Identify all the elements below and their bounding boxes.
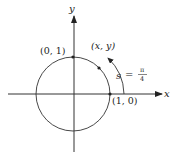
point-0-1 bbox=[71, 55, 74, 58]
point-label-1-0: (1, 0) bbox=[112, 95, 138, 106]
arc-equals: = bbox=[125, 69, 133, 80]
arc-fraction-numerator: π bbox=[140, 66, 145, 74]
arc-fraction-denominator: 4 bbox=[140, 75, 144, 83]
unit-circle-diagram: y x (0, 1) (1, 0) (x, y) s = π 4 bbox=[0, 0, 171, 155]
x-axis-label: x bbox=[164, 88, 170, 99]
y-axis-label: y bbox=[68, 3, 75, 14]
point-label-x-y: (x, y) bbox=[91, 40, 115, 51]
point-x-y bbox=[97, 66, 100, 69]
point-label-0-1: (0, 1) bbox=[40, 45, 66, 56]
arc-variable-s: s bbox=[116, 70, 121, 81]
